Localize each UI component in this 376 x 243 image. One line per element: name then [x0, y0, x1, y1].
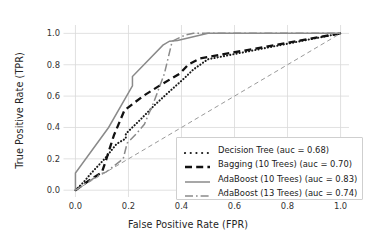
x-tick-label: 0.4 [175, 201, 188, 211]
legend-line-swatch [184, 144, 211, 156]
x-tick-label: 1.0 [334, 201, 347, 211]
y-axis-label: True Positive Rate (TPR) [14, 25, 25, 196]
legend-label: AdaBoost (10 Trees) (auc = 0.83) [218, 175, 357, 183]
legend-label: Bagging (10 Trees) (auc = 0.70) [218, 160, 352, 168]
legend-label: AdaBoost (13 Trees) (auc = 0.74) [218, 189, 357, 197]
x-tick-label: 0.2 [122, 201, 135, 211]
y-tick-label: 0.4 [32, 122, 60, 132]
legend-item[interactable]: AdaBoost (10 Trees) (auc = 0.83) [177, 172, 362, 187]
legend-label: Decision Tree (auc = 0.68) [218, 146, 329, 154]
legend-item[interactable]: Bagging (10 Trees) (auc = 0.70) [177, 157, 362, 172]
legend-item[interactable]: AdaBoost (13 Trees) (auc = 0.74) [177, 186, 362, 201]
roc-curve-figure: False Positive Rate (FPR) True Positive … [0, 0, 376, 243]
y-tick-label: 0.6 [32, 91, 60, 101]
legend-line-swatch [184, 173, 211, 185]
x-tick-label: 0.0 [69, 201, 82, 211]
y-tick-label: 0.2 [32, 154, 60, 164]
x-axis-label: False Positive Rate (FPR) [0, 219, 376, 230]
legend-line-swatch [184, 158, 211, 170]
y-tick-label: 0.0 [32, 185, 60, 195]
chart-legend: Decision Tree (auc = 0.68)Bagging (10 Tr… [176, 137, 363, 200]
x-tick-label: 0.6 [228, 201, 241, 211]
legend-line-swatch [184, 187, 211, 199]
y-tick-label: 0.8 [32, 60, 60, 70]
x-tick-label: 0.8 [281, 201, 294, 211]
legend-item[interactable]: Decision Tree (auc = 0.68) [177, 143, 362, 158]
y-tick-label: 1.0 [32, 28, 60, 38]
